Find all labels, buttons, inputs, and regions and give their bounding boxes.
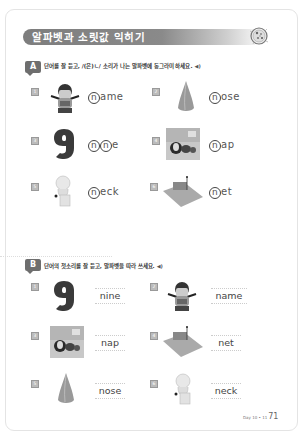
- word-rest: et: [221, 186, 232, 197]
- word-nose[interactable]: nose: [209, 91, 240, 104]
- word-rest: ose: [221, 91, 240, 102]
- word-net[interactable]: net: [209, 186, 232, 199]
- item-number: 2: [150, 283, 158, 291]
- circled-letter[interactable]: n: [209, 92, 221, 104]
- word-name[interactable]: name: [88, 91, 124, 104]
- item-number: 1: [31, 88, 39, 96]
- section-b-badge: B: [25, 259, 41, 271]
- trace-word-box[interactable]: neck: [211, 383, 241, 399]
- item-number: 6: [150, 183, 158, 191]
- word-nap[interactable]: nap: [209, 139, 234, 152]
- word-rest: eck: [100, 186, 119, 197]
- nose-picture: [175, 80, 197, 114]
- girl-name-tag-picture: [165, 280, 199, 312]
- napping-child-picture: [166, 128, 200, 160]
- word-neck[interactable]: neck: [88, 186, 119, 199]
- word-nine[interactable]: nne: [88, 139, 119, 152]
- trace-word-box[interactable]: nine: [95, 288, 125, 304]
- item-number: 1: [31, 283, 39, 291]
- word-rest: ap: [221, 139, 234, 150]
- trace-word-box[interactable]: name: [211, 288, 247, 304]
- girl-name-tag-picture: [48, 82, 82, 114]
- statue-bust-picture: [52, 175, 74, 207]
- section-divider: [0, 256, 112, 257]
- page-number: 71: [268, 412, 278, 421]
- page-footer: Day 10 • 1171: [243, 412, 278, 421]
- item-number: 5: [31, 183, 39, 191]
- item-number: 3: [31, 137, 39, 145]
- tennis-net-picture: [163, 325, 203, 357]
- item-number: 3: [31, 332, 39, 340]
- item-number: 4: [150, 332, 158, 340]
- pizza-icon: [248, 25, 270, 47]
- circled-letter[interactable]: n: [209, 187, 221, 199]
- item-number: 4: [152, 137, 160, 145]
- circled-letter[interactable]: n: [88, 92, 100, 104]
- circled-letter[interactable]: n: [88, 140, 100, 152]
- trace-word-box[interactable]: nose: [95, 383, 125, 399]
- number-nine-picture: [52, 280, 76, 312]
- circled-letter[interactable]: n: [209, 140, 221, 152]
- statue-bust-picture: [172, 372, 194, 406]
- section-a-badge: A: [25, 61, 41, 73]
- section-a-instruction-text: 단어를 잘 듣고, /(은)ㄴ/ 소리가 나는 알파벳에 동그라미 하세요.: [44, 63, 193, 69]
- circled-letter[interactable]: n: [100, 140, 112, 152]
- circled-letter[interactable]: n: [88, 187, 100, 199]
- item-number: 6: [150, 380, 158, 388]
- speaker-icon[interactable]: ◀): [157, 263, 163, 269]
- word-rest: ame: [100, 91, 124, 102]
- page-title: 알파벳과 소릿값 익히기: [32, 29, 145, 45]
- section-a-instruction: 단어를 잘 듣고, /(은)ㄴ/ 소리가 나는 알파벳에 동그라미 하세요.◀): [44, 62, 201, 70]
- trace-word-box[interactable]: nap: [95, 335, 125, 351]
- section-b-instruction: 단어의 첫소리를 잘 듣고, 알파벳을 따라 쓰세요.◀): [44, 262, 163, 270]
- section-b-instruction-text: 단어의 첫소리를 잘 듣고, 알파벳을 따라 쓰세요.: [44, 263, 155, 269]
- tennis-net-picture: [163, 175, 203, 207]
- nose-picture: [55, 372, 77, 406]
- number-nine-picture: [52, 128, 76, 160]
- footer-label: Day 10 • 11: [243, 415, 267, 420]
- item-number: 5: [31, 380, 39, 388]
- word-rest: e: [112, 139, 119, 150]
- item-number: 2: [152, 88, 160, 96]
- worksheet-page: [5, 9, 298, 431]
- napping-child-picture: [50, 326, 84, 358]
- speaker-icon[interactable]: ◀): [195, 63, 201, 69]
- trace-word-box[interactable]: net: [211, 335, 241, 351]
